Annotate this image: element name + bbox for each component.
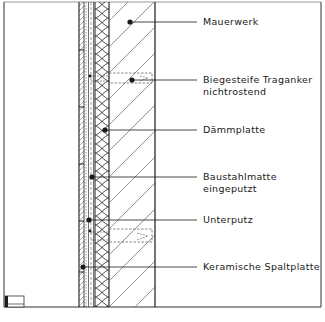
label-baustahlmatte: Baustahlmatte eingeputzt [203, 171, 277, 195]
corner-box [5, 296, 24, 307]
insulation-layer [95, 2, 109, 307]
wall-section-drawing: Mauerwerk Biegesteife Traganker nichtros… [0, 0, 325, 322]
label-traganker-line1: Biegesteife Traganker [203, 74, 312, 86]
plaster-layer [86, 2, 94, 307]
section-svg [0, 0, 325, 322]
label-unterputz: Unterputz [203, 214, 253, 226]
label-traganker: Biegesteife Traganker nichtrostend [203, 74, 312, 98]
label-traganker-line2: nichtrostend [203, 86, 312, 98]
label-daemmplatte: Dämmplatte [203, 124, 265, 136]
masonry-layer [109, 2, 155, 307]
label-spaltplatte: Keramische Spaltplatte [203, 261, 320, 273]
label-mauerwerk: Mauerwerk [203, 16, 259, 28]
label-baustahlmatte-line2: eingeputzt [203, 183, 277, 195]
label-baustahlmatte-line1: Baustahlmatte [203, 171, 277, 183]
label-spaltplatte-text: Keramische Spaltplatte [203, 261, 320, 273]
label-daemmplatte-text: Dämmplatte [203, 124, 265, 136]
label-mauerwerk-text: Mauerwerk [203, 16, 259, 28]
label-unterputz-text: Unterputz [203, 214, 253, 226]
tile-layer [79, 2, 84, 307]
